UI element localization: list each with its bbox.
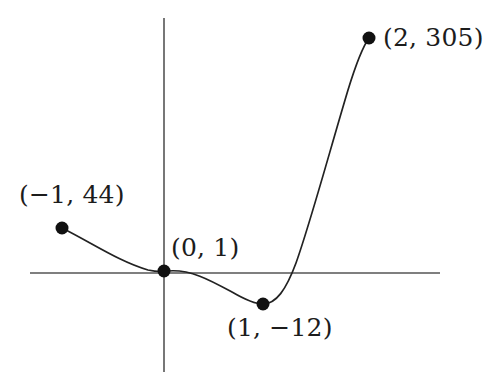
point-label-2-305: (2, 305) (383, 25, 484, 50)
point-label-1-neg12: (1, −12) (227, 315, 333, 340)
point-0-1-marker (158, 265, 171, 278)
point-label-neg1-44: (−1, 44) (19, 182, 125, 207)
plot-figure: (−1, 44) (0, 1) (1, −12) (2, 305) (0, 0, 485, 387)
cubic-curve (62, 38, 369, 304)
point-1-neg12-marker (257, 298, 270, 311)
point-neg1-44-marker (56, 222, 69, 235)
point-label-0-1: (0, 1) (171, 235, 239, 260)
point-2-305-marker (363, 32, 376, 45)
